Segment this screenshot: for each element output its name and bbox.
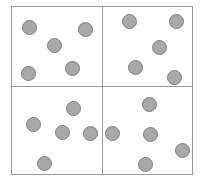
quadrant-frame: [11, 6, 193, 175]
vertical-divider: [102, 7, 103, 174]
diagram-canvas: [0, 0, 204, 180]
horizontal-divider: [12, 86, 192, 87]
